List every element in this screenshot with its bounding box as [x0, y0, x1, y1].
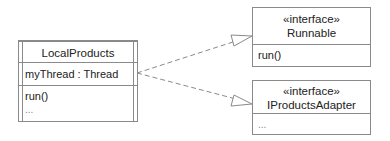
realization-runnable	[137, 35, 252, 73]
interface-name-compartment: «interface» Runnable	[253, 8, 370, 44]
interface-name: Runnable	[253, 26, 370, 40]
interface-runnable[interactable]: «interface» Runnable run()	[252, 7, 371, 67]
active-class-border-right	[133, 41, 134, 121]
class-name: LocalProducts	[42, 47, 115, 59]
active-class-border-left	[22, 41, 23, 121]
attribute-mythread: myThread : Thread	[19, 68, 137, 81]
operation-ellipsis: ...	[253, 118, 370, 131]
interface-name: IProductsAdapter	[253, 98, 370, 112]
interface-iproductsadapter[interactable]: «interface» IProductsAdapter ...	[252, 80, 371, 135]
operations-compartment: ...	[253, 113, 370, 134]
stereotype-label: «interface»	[253, 84, 370, 98]
class-name-compartment: LocalProducts	[19, 41, 137, 62]
operation-ellipsis: ...	[19, 103, 137, 116]
operations-compartment: run() ...	[19, 85, 137, 121]
realization-iproductsadapter	[137, 73, 252, 106]
attributes-compartment: myThread : Thread	[19, 62, 137, 85]
interface-name-compartment: «interface» IProductsAdapter	[253, 81, 370, 113]
operation-run: run()	[253, 49, 370, 62]
operations-compartment: run()	[253, 44, 370, 66]
stereotype-label: «interface»	[253, 12, 370, 26]
class-localproducts[interactable]: LocalProducts myThread : Thread run() ..…	[18, 40, 138, 122]
operation-run: run()	[19, 90, 137, 103]
